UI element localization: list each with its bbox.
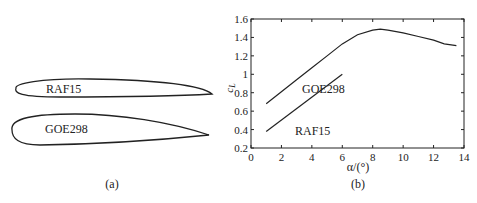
y-tick-label: 1.2: [234, 50, 248, 62]
label-raf15: RAF15: [46, 82, 81, 96]
y-axis-ticks: 0.20.40.60.811.21.41.6: [234, 13, 464, 154]
series-label-raf15: RAF15: [295, 124, 330, 138]
x-tick-label: 4: [309, 151, 315, 163]
x-tick-label: 12: [428, 151, 439, 163]
caption-b: (b): [351, 177, 365, 191]
plot-frame: [251, 19, 464, 148]
y-tick-label: 1.4: [234, 31, 248, 43]
y-tick-label: 1.6: [234, 13, 248, 25]
x-tick-label: 14: [459, 151, 471, 163]
x-tick-label: 8: [370, 151, 376, 163]
x-axis-label: α/(°): [347, 160, 369, 174]
x-tick-label: 0: [248, 151, 254, 163]
panel-b: 02468101214 0.20.40.60.811.21.41.6 GOE29…: [223, 13, 470, 191]
series-label-goe298: GOE298: [302, 82, 345, 96]
airfoil-goe298-outline: [12, 114, 209, 145]
y-tick-label: 1: [243, 68, 249, 80]
y-tick-label: 0.4: [234, 124, 248, 136]
y-tick-label: 0.2: [234, 142, 248, 154]
caption-a: (a): [105, 177, 118, 191]
y-tick-label: 0.6: [234, 105, 248, 117]
series-line-goe298: [266, 29, 456, 104]
label-goe298: GOE298: [45, 122, 88, 136]
figure: RAF15 GOE298 (a) 02468101214 0.20.40.60.…: [0, 0, 477, 203]
y-axis-label: cL: [223, 83, 237, 93]
x-tick-label: 2: [279, 151, 285, 163]
panel-a: RAF15 GOE298 (a): [12, 79, 212, 191]
x-tick-label: 10: [398, 151, 410, 163]
series-lines: [266, 29, 456, 131]
x-tick-label: 6: [340, 151, 346, 163]
